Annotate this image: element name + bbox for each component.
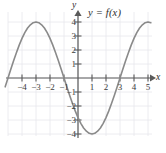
y-axis-name: y	[72, 1, 76, 11]
plot-background	[0, 0, 166, 153]
x-axis-name: x	[156, 73, 160, 83]
plot-canvas	[0, 0, 166, 153]
equation-label: y = f(x)	[88, 8, 121, 19]
graph-figure: y = f(x) x y −4 −3 −2 −1 1 2 3 4 5 4 3 2…	[0, 0, 166, 153]
